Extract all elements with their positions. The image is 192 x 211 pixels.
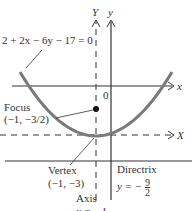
directrix-label: Directrix — [117, 163, 157, 175]
axis-eq: x = −1 — [76, 205, 107, 211]
directrix-fraction: 9 2 — [145, 178, 150, 197]
focus-coords: (−1, −3/2) — [4, 113, 49, 125]
focus-point — [93, 106, 99, 112]
vertex-label: Vertex — [48, 164, 77, 176]
x-axis-label: x — [177, 80, 182, 92]
y-axis-label: y — [108, 6, 113, 18]
origin-label: 0 — [103, 89, 109, 101]
Y-axis-label: Y — [92, 6, 98, 18]
parabola-curve — [20, 72, 172, 136]
directrix-eq: y = − 9 2 — [117, 178, 150, 197]
vertex-coords: (−1, −3) — [48, 177, 84, 189]
X-axis-label: X — [177, 129, 184, 141]
axis-label: Axis — [76, 192, 97, 204]
focus-label: Focus — [4, 101, 30, 113]
directrix-eq-lhs: y = − — [117, 180, 142, 192]
equation-label: 2 + 2x − 6y − 17 = 0 — [2, 34, 93, 46]
